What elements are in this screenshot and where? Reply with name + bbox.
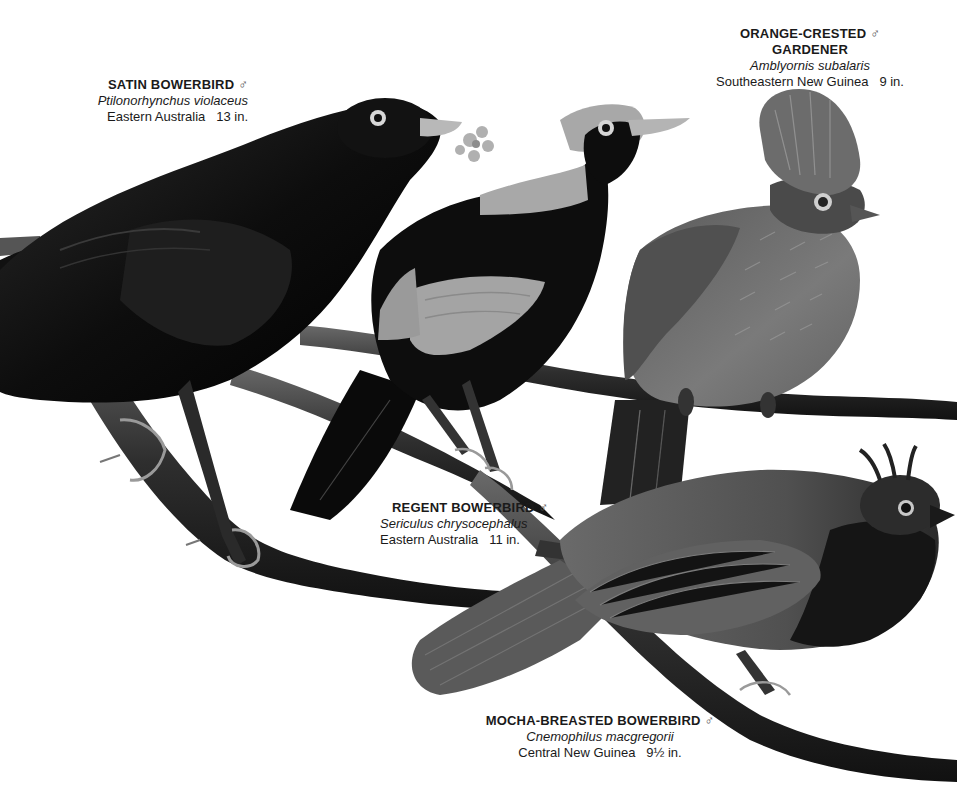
size: 13 in. [216, 109, 248, 124]
male-symbol-icon: ♂ [705, 713, 715, 728]
male-symbol-icon: ♂ [238, 77, 248, 92]
bird-name: MOCHA-BREASTED BOWERBIRD [486, 713, 701, 728]
scientific-name: Sericulus chrysocephalus [380, 516, 548, 532]
bird-name: ORANGE-CRESTED [740, 26, 866, 41]
caption-orange-crested-gardener: ORANGE-CRESTED♂ GARDENER Amblyornis suba… [690, 26, 930, 90]
range-size: Eastern Australia 13 in. [60, 109, 248, 125]
size: 9½ in. [646, 745, 681, 760]
size: 11 in. [489, 532, 520, 547]
size: 9 in. [879, 74, 904, 89]
bird-name-line2: GARDENER [690, 42, 930, 58]
caption-satin-bowerbird: SATIN BOWERBIRD♂ Ptilonorhynchus violace… [60, 77, 248, 125]
range-size: Central New Guinea 9½ in. [470, 745, 730, 761]
range: Eastern Australia [380, 532, 478, 547]
caption-regent-bowerbird: REGENT BOWERBIRD♂ Sericulus chrysocephal… [380, 500, 548, 548]
caption-mocha-breasted-bowerbird: MOCHA-BREASTED BOWERBIRD♂ Cnemophilus ma… [470, 713, 730, 761]
range: Southeastern New Guinea [716, 74, 868, 89]
bird-name: SATIN BOWERBIRD [108, 77, 234, 92]
range-size: Southeastern New Guinea 9 in. [690, 74, 930, 90]
male-symbol-icon: ♂ [539, 500, 549, 515]
range: Central New Guinea [518, 745, 635, 760]
scientific-name: Cnemophilus macgregorii [470, 729, 730, 745]
orange-crested-gardener-figure [600, 89, 880, 505]
scientific-name: Ptilonorhynchus violaceus [60, 93, 248, 109]
range: Eastern Australia [107, 109, 205, 124]
bird-name: REGENT BOWERBIRD [392, 500, 535, 515]
male-symbol-icon: ♂ [870, 26, 880, 41]
range-size: Eastern Australia 11 in. [380, 532, 548, 548]
scientific-name: Amblyornis subalaris [690, 58, 930, 74]
